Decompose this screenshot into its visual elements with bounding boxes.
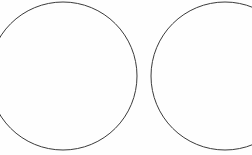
right-circle xyxy=(151,2,252,150)
drawing-canvas xyxy=(0,0,252,155)
figure-svg xyxy=(0,0,252,155)
left-circle xyxy=(0,2,137,150)
